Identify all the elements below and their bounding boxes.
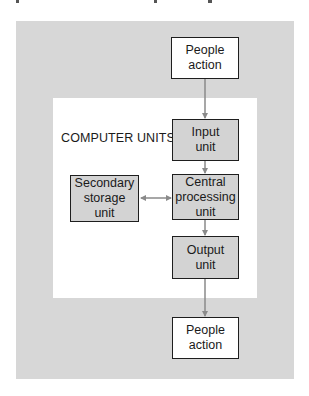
output-unit-box: Output unit bbox=[172, 236, 239, 279]
people-action-bottom-box: People action bbox=[172, 317, 239, 359]
input-unit-box: Input unit bbox=[172, 119, 239, 161]
secondary-storage-box: Secondary storage unit bbox=[70, 175, 139, 222]
cpu-box: Central processing unit bbox=[172, 174, 239, 220]
connector-arrows bbox=[0, 0, 309, 396]
people-action-top-box: People action bbox=[171, 37, 239, 79]
